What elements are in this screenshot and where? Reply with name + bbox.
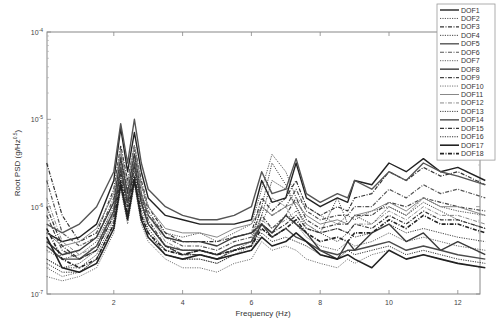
x-axis-label: Frequency (Hz)	[235, 309, 290, 318]
plot-area	[47, 32, 480, 294]
legend-entry: DOF7	[461, 57, 480, 64]
y-tick-label: 10-4	[31, 27, 43, 36]
psd-chart: 10-410-510-610-7 24681012 Frequency (Hz)…	[0, 0, 501, 333]
legend-entry: DOF6	[461, 49, 480, 56]
legend-entry: DOF11	[461, 91, 483, 98]
legend-entry: DOF8	[461, 66, 480, 73]
x-tick-label: 8	[318, 299, 322, 306]
legend-entry: DOF3	[461, 23, 480, 30]
legend-entry: DOF4	[461, 32, 480, 39]
legend-entry: DOF10	[461, 83, 484, 90]
legend-entry: DOF9	[461, 74, 480, 81]
x-tick-label: 2	[112, 299, 116, 306]
x-tick-label: 6	[249, 299, 253, 306]
x-tick-label: 4	[181, 299, 185, 306]
legend-entry: DOF12	[461, 99, 484, 106]
legend-entry: DOF17	[461, 142, 484, 149]
y-tick-label: 10-6	[31, 202, 43, 211]
legend-entry: DOF18	[461, 150, 484, 157]
legend-entry: DOF15	[461, 125, 484, 132]
x-tick-label: 10	[385, 299, 393, 306]
legend: DOF1DOF2DOF3DOF4DOF5DOF6DOF7DOF8DOF9DOF1…	[437, 4, 495, 160]
legend-entry: DOF14	[461, 116, 484, 123]
legend-entry: DOF2	[461, 15, 480, 22]
y-axis-label: Root PSD (g/Hz0.5)	[12, 129, 22, 196]
legend-entry: DOF16	[461, 133, 484, 140]
y-tick-label: 10-5	[31, 114, 43, 123]
legend-entry: DOF1	[461, 7, 480, 14]
y-tick-label: 10-7	[31, 289, 43, 298]
legend-entry: DOF5	[461, 40, 480, 47]
legend-entry: DOF13	[461, 108, 484, 115]
x-tick-label: 12	[454, 299, 462, 306]
